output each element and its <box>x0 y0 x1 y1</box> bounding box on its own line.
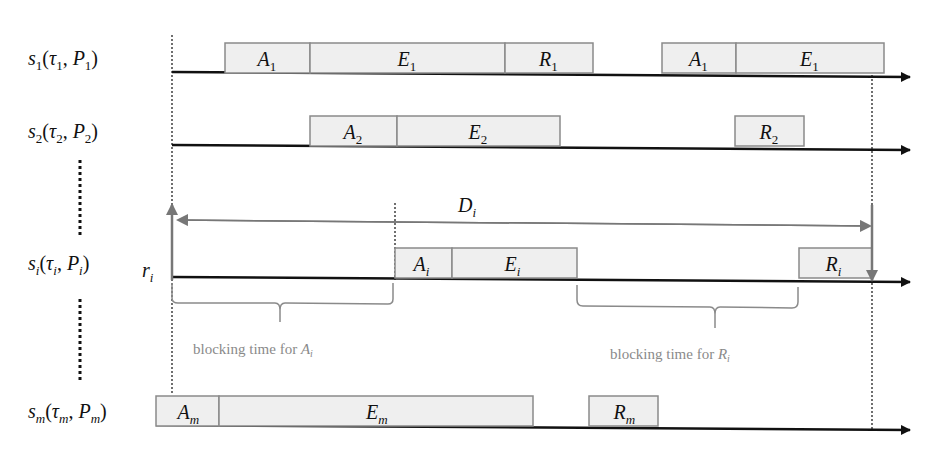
deadline-label: Di <box>457 194 476 220</box>
release-label: ri <box>142 259 154 285</box>
deadline-span-arrow-right-icon <box>178 220 870 226</box>
row-label-s2: s2(τ2, P2) <box>28 120 98 146</box>
blocking-brace-r <box>577 285 798 328</box>
blocking-brace-a <box>172 283 393 322</box>
blocking-time-a-label: blocking time for Ai <box>193 341 313 359</box>
row-label-sm: sm(τm, Pm) <box>28 400 107 426</box>
row-label-s1: s1(τ1, P1) <box>28 47 98 73</box>
timeline-diagram: A1E1R1A1E1s1(τ1, P1)A2E2R2s2(τ2, P2)AiEi… <box>0 0 935 459</box>
row-label-si: si(τi, Pi) <box>28 252 89 278</box>
blocking-time-r-label: blocking time for Ri <box>610 346 730 364</box>
